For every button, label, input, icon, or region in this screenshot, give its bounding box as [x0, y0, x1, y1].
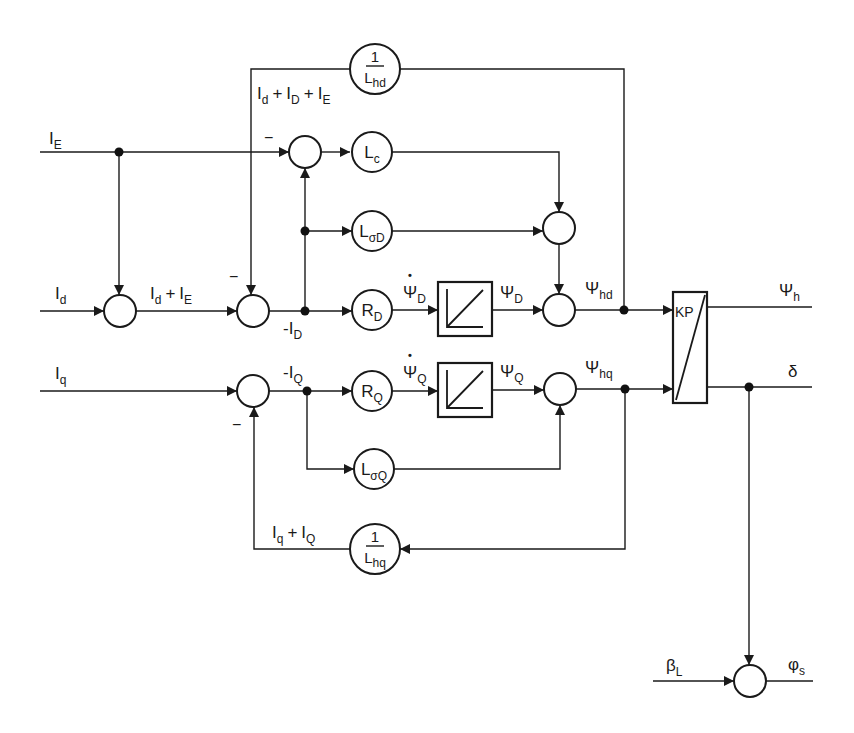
- sum-junction-phi-s: [734, 665, 766, 697]
- junction-dot: [745, 383, 754, 392]
- kp-transform-block: KP: [673, 292, 707, 403]
- block-diagram: Lc LσD RD RQ LσQ 1 Lhd 1 Lhq: [0, 0, 854, 733]
- label-psi-hq: Ψhq: [585, 358, 613, 381]
- gain-RQ: RQ: [352, 371, 392, 411]
- fraction-denominator-sub: hd: [372, 76, 385, 90]
- wire-Lc-out: [392, 152, 559, 212]
- minus-sign-sum-d: −: [229, 268, 238, 285]
- summing-junctions: [104, 136, 766, 697]
- integrator-D: [438, 282, 492, 336]
- fraction-numerator: 1: [371, 48, 379, 65]
- integrator-Q: [438, 363, 492, 417]
- junctions: [115, 148, 754, 396]
- label-psi-D: ΨD: [500, 283, 523, 306]
- label-Id-plus-IE: Id+IE: [150, 284, 192, 307]
- gain-LsigmaQ: LσQ: [354, 449, 394, 489]
- gain-label: R: [361, 382, 373, 401]
- label-Id: Id: [55, 284, 66, 307]
- junction-dot: [620, 306, 629, 315]
- label-Iq: Iq: [55, 364, 66, 387]
- gain-sub: σQ: [370, 469, 387, 483]
- sum-junction-d-input: [104, 295, 136, 327]
- gain-label: L: [359, 222, 368, 241]
- label-Id-plus-ID-plus-IE: Id+ID+IE: [257, 84, 330, 107]
- gain-sub: c: [374, 152, 380, 166]
- fraction-denominator-sub: hq: [372, 556, 385, 570]
- label-betaL: βL: [666, 656, 683, 679]
- fraction-denominator: L: [364, 69, 372, 86]
- gain-sub: D: [374, 310, 383, 324]
- junction-dot: [303, 387, 312, 396]
- sum-junction-upper-right: [543, 212, 575, 244]
- label-neg-IQ: -IQ: [283, 363, 303, 386]
- label-delta: δ: [788, 362, 797, 381]
- gain-label: L: [364, 143, 373, 162]
- fraction-numerator: 1: [371, 528, 379, 545]
- sum-junction-d: [237, 295, 269, 327]
- label-psi-hd: Ψhd: [585, 279, 613, 302]
- sum-junction-q: [237, 375, 269, 407]
- label-psi-dot-Q: ΨQ: [403, 363, 427, 386]
- kp-label: KP: [675, 304, 694, 320]
- gain-label: L: [361, 460, 370, 479]
- label-psi-h: Ψh: [779, 281, 800, 304]
- derivative-dot-Q: •: [408, 349, 412, 361]
- gain-label: R: [362, 301, 374, 320]
- minus-sign-sum-q: −: [232, 416, 241, 433]
- sum-junction-c: [289, 136, 321, 168]
- gain-LsigmaD: LσD: [352, 211, 392, 251]
- minus-sign-sum-c: −: [264, 129, 273, 146]
- derivative-dot-D: •: [408, 269, 412, 281]
- fraction-denominator: L: [364, 549, 372, 566]
- gain-sub: Q: [373, 391, 382, 405]
- junction-dot: [301, 227, 310, 236]
- junction-dot: [301, 307, 310, 316]
- gain-RD: RD: [352, 290, 392, 330]
- wire-psi-hd-feedback-up: [400, 69, 624, 310]
- label-Iq-plus-IQ: Iq+IQ: [272, 523, 315, 546]
- gain-inv-Lhd: 1 Lhd: [350, 44, 400, 94]
- wire-to-LsigmaQ: [307, 391, 354, 469]
- gain-inv-Lhq: 1 Lhq: [350, 524, 400, 574]
- label-IE: IE: [49, 129, 62, 152]
- label-phi-s: φs: [788, 655, 805, 678]
- sum-junction-psi-hd: [543, 294, 575, 326]
- label-psi-Q: ΨQ: [500, 362, 524, 385]
- sum-junction-psi-hq: [544, 373, 576, 405]
- junction-dot: [621, 385, 630, 394]
- junction-dot: [115, 148, 124, 157]
- label-psi-dot-D: ΨD: [403, 283, 426, 306]
- label-neg-ID: -ID: [283, 319, 302, 342]
- gain-Lc: Lc: [352, 132, 392, 172]
- gain-sub: σD: [369, 231, 385, 245]
